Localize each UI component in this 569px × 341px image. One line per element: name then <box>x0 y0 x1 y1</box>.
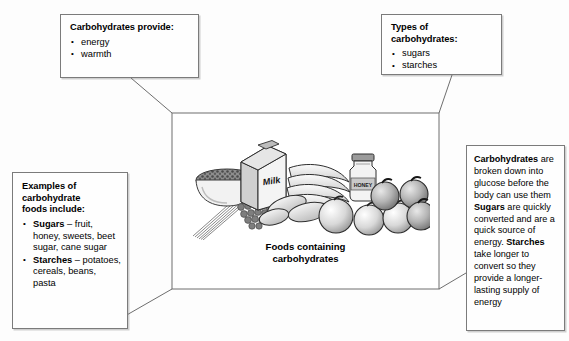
examples-bullet-list: Sugars – fruit, honey, sweets, beet suga… <box>22 219 121 290</box>
digestion-term: Starches <box>506 237 544 247</box>
digestion-text: take longer to convert so they provide a… <box>474 249 542 307</box>
diagram-canvas: Milk HONEY <box>0 0 569 341</box>
perspective-line-top-left <box>131 78 172 113</box>
digestion-paragraph: Carbohydrates are broken down into gluco… <box>474 154 559 309</box>
list-item: warmth <box>70 49 190 61</box>
callout-types-of-carbohydrates: Types of carbohydrates: sugars starches <box>381 14 502 75</box>
illustration-caption: Foods containing carbohydrates <box>172 241 439 265</box>
perspective-line-top-right <box>439 75 452 113</box>
callout-digestion-explanation: Carbohydrates are broken down into gluco… <box>466 145 565 331</box>
list-item: starches <box>391 60 493 72</box>
types-bullet-list: sugars starches <box>391 48 493 72</box>
callout-title-line-1: Examples of <box>22 181 121 193</box>
callout-title: Carbohydrates provide: <box>70 22 190 34</box>
callout-examples-of-foods: Examples of carbohydrate foods include: … <box>12 172 128 329</box>
foods-illustration: Milk HONEY <box>186 140 430 240</box>
bullet-lead: Sugars <box>33 219 65 229</box>
caption-line-1: Foods containing <box>172 241 439 253</box>
callout-title-line-3: foods include: <box>22 204 121 216</box>
perspective-line-bottom-right <box>439 273 466 289</box>
callout-title-line-2: carbohydrate <box>22 193 121 205</box>
svg-text:HONEY: HONEY <box>354 182 373 188</box>
list-item: Sugars – fruit, honey, sweets, beet suga… <box>22 219 121 254</box>
caption-line-2: carbohydrates <box>172 253 439 265</box>
list-item: Starches – potatoes, cereals, beans, pas… <box>22 255 121 290</box>
list-item: energy <box>70 37 190 49</box>
digestion-term: Carbohydrates <box>474 154 538 164</box>
list-item: sugars <box>391 48 493 60</box>
provide-bullet-list: energy warmth <box>70 37 190 61</box>
callout-carbohydrates-provide: Carbohydrates provide: energy warmth <box>60 14 199 78</box>
callout-title: Types of carbohydrates: <box>391 22 493 45</box>
oranges-icon <box>319 196 413 235</box>
digestion-term: Sugars <box>474 202 505 212</box>
bullet-lead: Starches <box>33 255 72 265</box>
